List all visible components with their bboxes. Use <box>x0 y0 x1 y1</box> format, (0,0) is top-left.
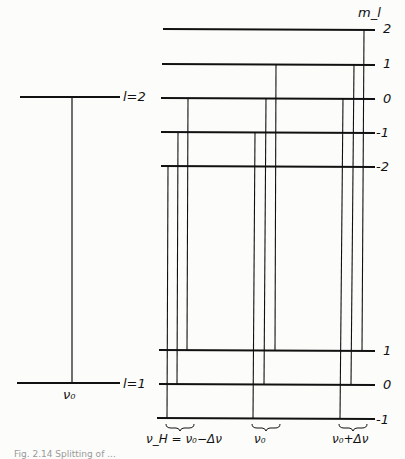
upper-m-1: 1 <box>383 57 391 70</box>
ml-header: m_l <box>358 6 381 19</box>
upper-m-0: 0 <box>383 92 391 105</box>
lower-m-neg1: -1 <box>376 413 389 426</box>
split-lower-levels <box>157 350 375 419</box>
group-braces <box>166 424 367 431</box>
upper-m-neg1: -1 <box>376 126 389 139</box>
group-label-mid: ν₀ <box>254 433 266 445</box>
group-label-low: ν_H = ν₀−Δν <box>146 433 222 445</box>
nu0-label: ν₀ <box>63 388 75 401</box>
upper-m-neg2: -2 <box>376 160 389 173</box>
upper-m-2: 2 <box>383 22 391 35</box>
transitions <box>167 30 364 418</box>
group-label-high: ν₀+Δν <box>332 433 368 445</box>
upper-l-label: l=2 <box>123 90 146 103</box>
lower-m-0: 0 <box>383 378 391 391</box>
figure-caption: Fig. 2.14 Splitting of ... <box>14 450 116 459</box>
lower-m-1: 1 <box>383 344 391 357</box>
lower-l-label: l=1 <box>123 377 146 390</box>
unsplit-levels <box>17 97 120 383</box>
